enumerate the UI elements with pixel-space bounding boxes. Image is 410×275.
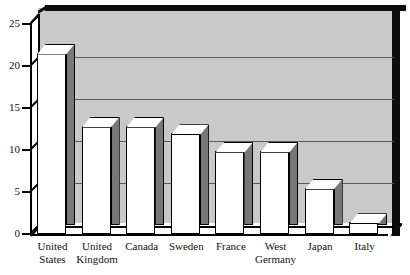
bar-side-face bbox=[244, 142, 253, 225]
bar bbox=[305, 179, 343, 234]
x-axis-label-line: United bbox=[76, 240, 119, 253]
x-axis-label-line: States bbox=[31, 253, 74, 266]
x-axis-label-line: Japan bbox=[299, 240, 342, 253]
x-axis-label-line: Italy bbox=[343, 240, 386, 253]
bar bbox=[215, 142, 253, 234]
gridline bbox=[38, 57, 394, 58]
x-axis-label: Canada bbox=[120, 240, 163, 253]
bar bbox=[349, 213, 387, 234]
bar-front-face bbox=[126, 126, 155, 234]
plot-wall-right-edge bbox=[392, 5, 400, 236]
x-axis-label-line: United bbox=[31, 240, 74, 253]
y-axis-front bbox=[30, 22, 32, 236]
y-axis-tick-label: 25 bbox=[0, 18, 20, 29]
bar bbox=[82, 117, 120, 234]
bar-side-face bbox=[155, 117, 164, 225]
y-axis-tick-connector bbox=[30, 14, 40, 24]
bar-side-face bbox=[66, 44, 75, 225]
bar bbox=[171, 124, 209, 234]
y-axis-tick-label: 5 bbox=[0, 186, 20, 197]
x-axis-label: France bbox=[209, 240, 252, 253]
x-axis-label: Sweden bbox=[165, 240, 208, 253]
x-axis-front bbox=[30, 234, 388, 236]
bar bbox=[260, 142, 298, 234]
x-axis-label: UnitedKingdom bbox=[76, 240, 119, 265]
y-axis-tick-label: 10 bbox=[0, 144, 20, 155]
x-axis-label: UnitedStates bbox=[31, 240, 74, 265]
bar-front-face bbox=[37, 53, 66, 234]
bar bbox=[126, 117, 164, 234]
chart-title bbox=[45, 0, 245, 4]
x-axis-label-line: Germany bbox=[254, 253, 297, 266]
bar-side-face bbox=[200, 124, 209, 225]
bar-front-face bbox=[260, 151, 289, 234]
plot-wall-top-edge bbox=[45, 5, 406, 11]
bar-front-face bbox=[82, 126, 111, 234]
bar-side-face bbox=[111, 117, 120, 225]
bar-chart: 2520151050 UnitedStatesUnitedKingdomCana… bbox=[0, 0, 410, 275]
x-axis-label: Italy bbox=[343, 240, 386, 253]
x-axis-label-line: Canada bbox=[120, 240, 163, 253]
y-axis-tick-label: 15 bbox=[0, 102, 20, 113]
bar bbox=[37, 44, 75, 234]
x-axis-label-line: Sweden bbox=[165, 240, 208, 253]
x-axis-label-line: Kingdom bbox=[76, 253, 119, 266]
y-axis-tick-label: 0 bbox=[0, 228, 20, 239]
y-axis-tick-label: 20 bbox=[0, 60, 20, 71]
bar-side-face bbox=[289, 142, 298, 225]
x-axis-label-line: West bbox=[254, 240, 297, 253]
gridline bbox=[38, 99, 394, 100]
bar-front-face bbox=[171, 133, 200, 234]
bar-front-face bbox=[305, 188, 334, 234]
x-axis-label: Japan bbox=[299, 240, 342, 253]
x-axis-label-line: France bbox=[209, 240, 252, 253]
bar-front-face bbox=[215, 151, 244, 234]
x-axis-label: WestGermany bbox=[254, 240, 297, 265]
